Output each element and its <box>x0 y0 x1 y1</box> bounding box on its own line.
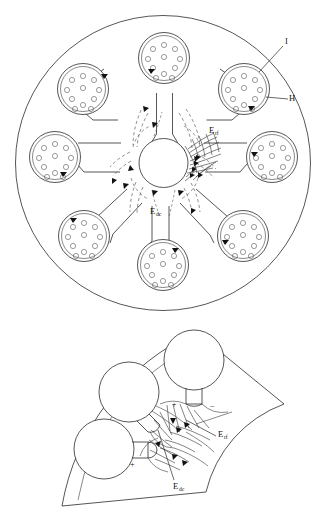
label-H: H <box>289 93 295 103</box>
label-I: I <box>285 36 288 46</box>
polarity-plus-2: + <box>130 460 135 469</box>
field-arrow-icon <box>112 178 117 184</box>
svg-text:E: E <box>173 481 178 491</box>
field-arrow-icon <box>170 418 176 424</box>
field-arrow-icon <box>123 183 129 189</box>
svg-text:dc: dc <box>179 486 185 492</box>
label-Erf-bottom: E rf <box>218 429 228 440</box>
sector-pods <box>74 330 224 479</box>
pod-cluster <box>30 132 81 183</box>
svg-text:E: E <box>150 206 155 216</box>
leader-line-I <box>259 46 283 72</box>
field-arrow-icon <box>178 190 184 196</box>
pod-cluster <box>218 211 269 262</box>
field-arrow-icon <box>128 165 134 171</box>
pod-cluster <box>58 64 109 115</box>
svg-text:dc: dc <box>156 211 162 217</box>
leader-line-Edc <box>158 430 174 480</box>
top-panel: I H E rf E dc <box>16 16 311 311</box>
leader-line-H <box>266 97 288 99</box>
scientific-figure-svg: I H E rf E dc <box>0 0 327 509</box>
field-arrow-icon <box>196 155 201 160</box>
pod-cluster <box>247 132 298 183</box>
pod-cluster <box>59 211 110 262</box>
svg-text:rf: rf <box>215 130 219 136</box>
polarity-plus-1: + <box>172 400 177 409</box>
pod-cluster <box>219 64 270 115</box>
svg-text:E: E <box>209 125 214 135</box>
field-arrow-icon <box>152 122 158 128</box>
sector-pod <box>164 330 224 406</box>
sector-field-lines <box>149 404 210 470</box>
figure-root: I H E rf E dc <box>0 0 327 509</box>
svg-text:E: E <box>218 429 223 439</box>
svg-text:rf: rf <box>224 434 228 440</box>
field-arrow-icon <box>191 208 196 214</box>
field-arrow-icon <box>152 190 158 196</box>
polarity-minus-1: − <box>210 402 215 411</box>
pod-cluster <box>138 240 189 291</box>
label-Edc-top: E dc <box>150 206 162 217</box>
label-Edc-bottom: E dc <box>173 481 185 492</box>
field-arrow-icon <box>143 106 149 112</box>
central-hub <box>139 139 188 188</box>
bottom-panel: + − + E rf E dc <box>62 330 284 506</box>
label-Erf-top: E rf <box>209 125 219 136</box>
rf-field-lines <box>185 132 221 181</box>
pod-cluster <box>139 33 190 84</box>
field-arrow-icon <box>194 161 199 166</box>
field-arrow-icon <box>172 454 178 460</box>
